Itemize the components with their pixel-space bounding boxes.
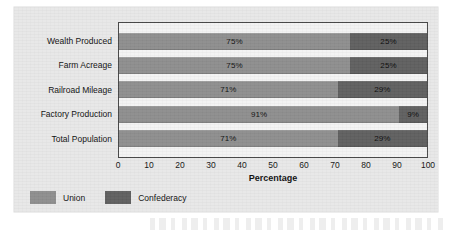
page-bleedthrough-smudge	[150, 218, 446, 230]
x-tick-label: 90	[392, 160, 401, 170]
bar-value-label: 71%	[220, 85, 236, 94]
bar-value-label: 75%	[226, 37, 242, 46]
scanned-page: Wealth ProducedFarm AcreageRailroad Mile…	[0, 0, 452, 236]
bar-segment-confederacy: 25%	[350, 33, 427, 50]
bar-segment-union: 75%	[119, 57, 350, 74]
bar-row: 71%29%	[119, 81, 427, 98]
category-label: Factory Production	[20, 106, 116, 123]
bar-row: 75%25%	[119, 33, 427, 50]
x-axis-title: Percentage	[118, 173, 428, 183]
bar-row: 75%25%	[119, 57, 427, 74]
plot-area: 75%25%75%25%71%29%91%9%71%29%	[118, 22, 428, 158]
category-label: Farm Acreage	[20, 57, 116, 74]
x-tick-label: 70	[330, 160, 339, 170]
legend-item: Confederacy	[105, 191, 186, 204]
legend-item: Union	[30, 191, 85, 204]
category-label: Total Population	[20, 131, 116, 148]
bar-segment-confederacy: 9%	[399, 106, 427, 123]
x-tick-label: 0	[116, 160, 121, 170]
chart-figure-panel: Wealth ProducedFarm AcreageRailroad Mile…	[14, 7, 438, 212]
bar-value-label: 25%	[380, 61, 396, 70]
category-axis-labels: Wealth ProducedFarm AcreageRailroad Mile…	[20, 22, 116, 158]
bar-value-label: 91%	[251, 110, 267, 119]
bar-segment-union: 75%	[119, 33, 350, 50]
bar-series-container: 75%25%75%25%71%29%91%9%71%29%	[119, 23, 427, 157]
bar-segment-union: 71%	[119, 81, 338, 98]
x-tick-label: 50	[268, 160, 277, 170]
bar-row: 91%9%	[119, 106, 427, 123]
category-label: Wealth Produced	[20, 33, 116, 50]
legend-swatch-icon	[105, 191, 131, 204]
bar-value-label: 25%	[380, 37, 396, 46]
bar-row: 71%29%	[119, 130, 427, 147]
chart-legend: UnionConfederacy	[30, 191, 206, 204]
bar-segment-union: 91%	[119, 106, 399, 123]
x-tick-label: 30	[206, 160, 215, 170]
x-tick-label: 100	[421, 160, 435, 170]
bar-value-label: 29%	[374, 134, 390, 143]
legend-swatch-icon	[30, 191, 56, 204]
bar-segment-union: 71%	[119, 130, 338, 147]
bar-segment-confederacy: 29%	[338, 81, 427, 98]
legend-label: Union	[63, 193, 85, 203]
bar-value-label: 71%	[220, 134, 236, 143]
bar-value-label: 9%	[407, 110, 419, 119]
x-tick-label: 20	[175, 160, 184, 170]
bar-segment-confederacy: 29%	[338, 130, 427, 147]
x-tick-label: 40	[237, 160, 246, 170]
x-tick-label: 80	[361, 160, 370, 170]
legend-label: Confederacy	[138, 193, 186, 203]
x-tick-label: 60	[299, 160, 308, 170]
bar-value-label: 29%	[374, 85, 390, 94]
x-axis-tick-labels: 0102030405060708090100	[118, 160, 428, 173]
category-label: Railroad Mileage	[20, 82, 116, 99]
x-tick-label: 10	[144, 160, 153, 170]
bar-value-label: 75%	[226, 61, 242, 70]
bar-segment-confederacy: 25%	[350, 57, 427, 74]
